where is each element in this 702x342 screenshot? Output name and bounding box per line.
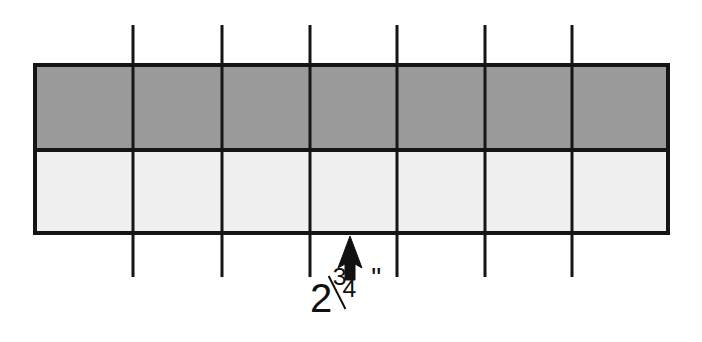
fraction-bar-ruler-svg bbox=[0, 0, 702, 342]
diagram-canvas: 234" bbox=[0, 0, 702, 342]
right-edge-margin bbox=[696, 0, 702, 342]
